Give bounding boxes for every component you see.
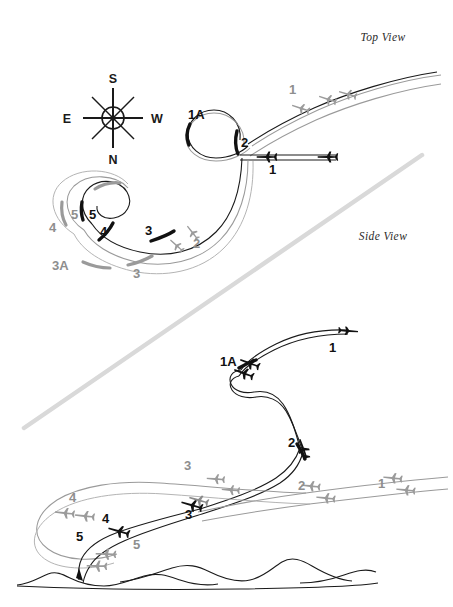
waypoint-label: 3A bbox=[52, 258, 69, 273]
waypoint-label: 5 bbox=[89, 207, 96, 222]
top-accent-5 bbox=[81, 202, 83, 220]
compass-center-dot bbox=[110, 115, 115, 120]
compass-label-top: S bbox=[109, 72, 117, 86]
waypoint-label: 2 bbox=[288, 435, 295, 450]
waypoint-label: 5 bbox=[133, 537, 140, 552]
waypoint-label: 5 bbox=[71, 207, 78, 222]
waypoint-label: 4 bbox=[100, 224, 108, 239]
waypoint-label: 1 bbox=[289, 82, 296, 97]
side-view-label: Side View bbox=[359, 230, 407, 242]
waypoint-label: 1 bbox=[329, 340, 336, 355]
waypoint-label: 3 bbox=[133, 266, 140, 281]
top-view-label: Top View bbox=[360, 31, 405, 44]
waypoint-label: 2 bbox=[241, 135, 248, 150]
waypoint-label: 2 bbox=[193, 236, 200, 251]
waypoint-label: 4 bbox=[102, 511, 110, 526]
waypoint-label: 1 bbox=[378, 476, 385, 491]
waypoint-label: 2 bbox=[298, 478, 305, 493]
waypoint-label: 1 bbox=[269, 162, 276, 177]
waypoint-label: 4 bbox=[49, 220, 57, 235]
waypoint-label: 1A bbox=[188, 107, 205, 122]
canvas-background bbox=[0, 0, 453, 607]
waypoint-label: 3 bbox=[145, 223, 152, 238]
compass-label-right: W bbox=[151, 112, 163, 126]
waypoint-label: 3 bbox=[184, 458, 191, 473]
waypoint-label: 1A bbox=[220, 354, 237, 369]
waypoint-label: 5 bbox=[76, 529, 83, 544]
waypoint-label: 3 bbox=[185, 507, 192, 522]
waypoint-label: 4 bbox=[69, 490, 77, 505]
compass-label-left: E bbox=[63, 112, 71, 126]
flight-path-diagram: Top View Side View S N E W bbox=[0, 0, 453, 607]
compass-label-bottom: N bbox=[108, 153, 117, 167]
